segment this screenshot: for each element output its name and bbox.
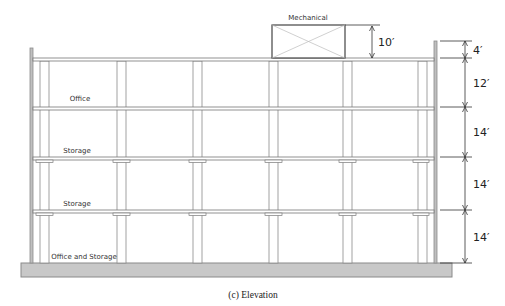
story-dimensions: 4′12′14′14′14′ xyxy=(440,41,490,263)
figure-caption: (c) Elevation xyxy=(228,290,278,301)
floor-label-storage-upper: Storage xyxy=(63,147,90,155)
right-exterior-wall xyxy=(434,41,437,263)
columns xyxy=(40,61,427,263)
floor-slab-4 xyxy=(33,210,434,213)
story-height-label: 14′ xyxy=(473,178,490,191)
floor-slab-3 xyxy=(33,157,434,160)
story-height-label: 14′ xyxy=(473,126,490,139)
beam-plate xyxy=(339,213,356,216)
beam-plate xyxy=(113,160,130,163)
floor-slab-1 xyxy=(33,58,434,61)
story-height-label: 4′ xyxy=(473,44,483,57)
beam-plate xyxy=(36,160,53,163)
mechanical-height-label: 10′ xyxy=(378,36,395,49)
floor-label-office-and-storage: Office and Storage xyxy=(51,253,116,261)
story-height-label: 12′ xyxy=(473,77,490,90)
foundation-slab xyxy=(21,263,452,277)
floor-slabs xyxy=(33,58,434,213)
floor-label-office: Office xyxy=(70,95,90,103)
beam-plate xyxy=(413,160,429,163)
beam-plate xyxy=(265,213,282,216)
beam-plate xyxy=(265,160,282,163)
beam-plate xyxy=(189,213,206,216)
beam-plate xyxy=(113,213,130,216)
floor-label-storage-lower: Storage xyxy=(63,200,90,208)
elevation-diagram: Mechanical 10′ 4′12′14′14′14′ Office Sto… xyxy=(0,0,505,306)
left-exterior-wall xyxy=(30,48,33,263)
mechanical-dimension xyxy=(345,25,380,58)
floor-slab-2 xyxy=(33,107,434,110)
beam-plate xyxy=(339,160,356,163)
mechanical-label: Mechanical xyxy=(288,14,327,22)
beam-plate xyxy=(189,160,206,163)
mechanical-penthouse: Mechanical xyxy=(272,14,345,58)
beam-plates xyxy=(36,160,429,216)
beam-plate xyxy=(413,213,429,216)
story-height-label: 14′ xyxy=(473,231,490,244)
beam-plate xyxy=(36,213,53,216)
